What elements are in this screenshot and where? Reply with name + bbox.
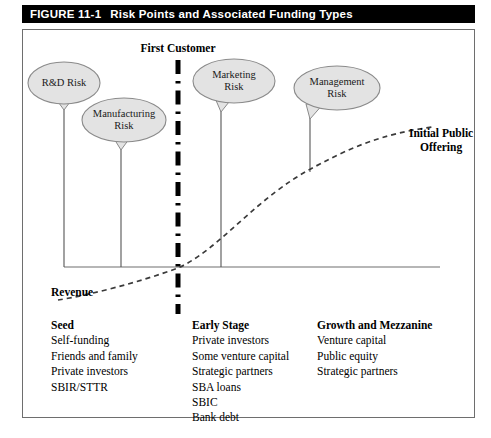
list-item: SBIR/STTR [51,380,138,395]
list-item: Venture capital [317,333,432,348]
list-item: Some venture capital [192,349,289,364]
list-item: SBA loans [192,380,289,395]
funding-column-early-stage-heading: Early Stage [192,318,289,333]
funding-column-seed-heading: Seed [51,318,138,333]
list-item: Strategic partners [317,364,432,379]
initial-public-offering-label: Initial Public Offering [409,126,473,154]
list-item: Friends and family [51,349,138,364]
marketing-risk-bubble-body [193,59,275,103]
revenue-curve [58,127,432,300]
rd-risk-bubble-body [28,62,100,104]
manufacturing-risk-bubble[interactable] [82,98,166,150]
list-item: Private investors [51,364,138,379]
funding-column-seed: Seed Self-funding Friends and family Pri… [51,318,138,395]
list-item: Public equity [317,349,432,364]
funding-column-early-stage: Early Stage Private investors Some ventu… [192,318,289,426]
list-item: SBIC [192,395,289,410]
list-item: Bank debt [192,410,289,425]
list-item: Strategic partners [192,364,289,379]
revenue-label: Revenue [51,286,93,298]
figure-stage: FIGURE 11-1 Risk Points and Associated F… [0,0,491,438]
list-item: Self-funding [51,333,138,348]
funding-column-growth-mezzanine-heading: Growth and Mezzanine [317,318,432,333]
marketing-risk-bubble[interactable] [193,59,275,112]
management-risk-bubble[interactable] [294,66,380,119]
rd-risk-bubble[interactable] [28,62,100,110]
manufacturing-risk-bubble-body [82,98,166,142]
management-risk-bubble-body [294,66,380,110]
first-customer-label: First Customer [140,42,215,54]
list-item: Private investors [192,333,289,348]
funding-column-growth-mezzanine: Growth and Mezzanine Venture capital Pub… [317,318,432,380]
